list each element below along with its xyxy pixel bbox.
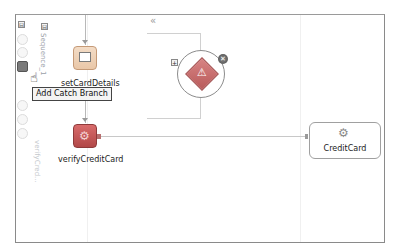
swimlane-divider	[300, 15, 301, 242]
arrow-down-icon	[82, 40, 88, 44]
expand-chevron-icon[interactable]: «	[150, 15, 156, 26]
activity-verifyCreditCard[interactable]: ⚙	[73, 124, 97, 148]
partner-link-CreditCard[interactable]: ⚙ CreditCard	[309, 122, 381, 159]
sequence-label: Sequence_1	[39, 33, 47, 75]
gear-icon: ⚙	[79, 129, 90, 143]
assign-icon	[79, 52, 91, 62]
tooltip: Add Catch Branch	[32, 87, 112, 101]
scope-icon-2[interactable]	[17, 47, 28, 58]
activity-label: verifyCreditCard	[58, 155, 123, 164]
partner-port	[305, 134, 308, 139]
scope-icon[interactable]	[17, 34, 28, 45]
event-handler-icon[interactable]	[17, 128, 28, 139]
expand-button[interactable]: +	[171, 59, 178, 66]
sequence-collapse-toggle[interactable]: ⊟	[41, 23, 48, 30]
arrow-down-icon	[82, 118, 88, 122]
hand-cursor-icon: ☝	[30, 70, 38, 85]
partner-link-label: CreditCard	[310, 144, 380, 153]
sidebar-collapse-toggle[interactable]: ⊟	[18, 21, 25, 28]
close-icon[interactable]: ✕	[218, 54, 228, 64]
gear-icon: ⚙	[338, 126, 349, 140]
catch-all-icon[interactable]	[17, 100, 28, 111]
sequence-lower-label: verifyCred...	[33, 140, 41, 183]
compensation-icon[interactable]	[17, 114, 28, 125]
activity-setCardDetails[interactable]	[73, 46, 97, 70]
add-catch-branch-icon[interactable]	[17, 61, 28, 72]
partner-link-connector	[101, 136, 307, 137]
warning-icon: ⚠	[195, 64, 209, 82]
